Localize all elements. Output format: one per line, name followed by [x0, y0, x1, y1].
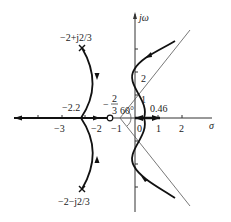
real-axis-label: σ — [209, 120, 215, 131]
real-tick-m1: −1 — [111, 123, 122, 134]
pole-upper-label: −2+j2/3 — [60, 32, 92, 43]
imag-axis-label: jω — [137, 12, 149, 23]
centroid-sign: − — [103, 99, 109, 110]
breakaway-label: −2.2 — [62, 102, 80, 113]
real-tick-1: 1 — [156, 123, 161, 134]
zero-marker — [107, 115, 113, 121]
real-tick-m3: −3 — [54, 123, 65, 134]
real-tick-0: 0 — [137, 123, 142, 134]
imag-tick-2: 2 — [141, 73, 146, 84]
imag-tick-1: 1 — [141, 94, 146, 105]
angle-label: 60° — [120, 105, 134, 116]
pole-lower-label: −2−j2/3 — [58, 196, 90, 207]
real-tick-2: 2 — [179, 123, 184, 134]
real-tick-m2: −2 — [91, 123, 102, 134]
pole-upper-marker — [79, 45, 85, 51]
centroid-numerator: 2 — [112, 93, 117, 104]
crossing-label: 0.46 — [150, 103, 168, 114]
pole-lower-marker — [79, 186, 85, 192]
root-locus-diagram: −2+j2/3 −2−j2/3 −2.2 − 2 3 60° 0.46 1 2 … — [0, 0, 231, 222]
real-axis-locus — [14, 115, 160, 121]
centroid-denominator: 3 — [112, 105, 117, 116]
